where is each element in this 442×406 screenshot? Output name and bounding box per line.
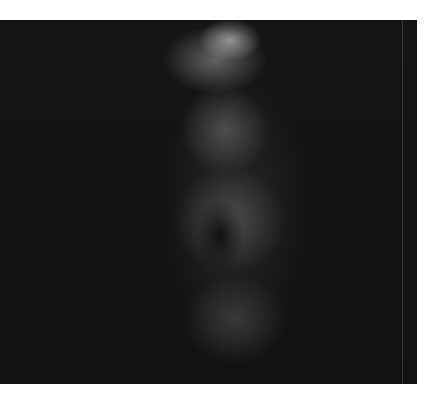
milky-way-photo — [0, 20, 417, 384]
star-field — [0, 20, 417, 384]
